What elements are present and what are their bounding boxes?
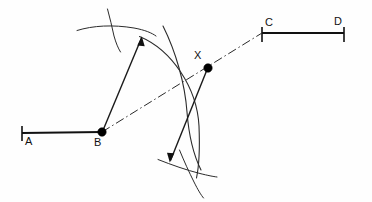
lower-crossing-arcs (158, 150, 217, 198)
segment-cd-group (262, 27, 344, 42)
upper-crossing-arc-left (77, 26, 156, 36)
point-x-dot (204, 64, 212, 72)
radius-line-b-upper (103, 38, 142, 132)
upper-crossing-arc-right (108, 9, 121, 52)
diagram-canvas: A B C D X (0, 0, 372, 202)
label-b: B (94, 136, 101, 148)
label-c: C (265, 16, 273, 28)
arrowhead-lower-icon (167, 153, 174, 163)
construction-figure: A B C D X (0, 0, 372, 202)
radius-line-upper-group (103, 36, 145, 131)
radius-line-x-lower (171, 69, 208, 161)
label-a: A (25, 135, 33, 147)
ray-b-to-c (102, 33, 262, 132)
construction-ray-group (102, 33, 262, 132)
label-d: D (334, 15, 342, 27)
segment-ab-group (22, 126, 102, 141)
lower-crossing-arc-right (180, 150, 204, 198)
segment-ab (22, 132, 102, 133)
point-b-dot (98, 128, 106, 136)
label-x: X (194, 49, 202, 61)
